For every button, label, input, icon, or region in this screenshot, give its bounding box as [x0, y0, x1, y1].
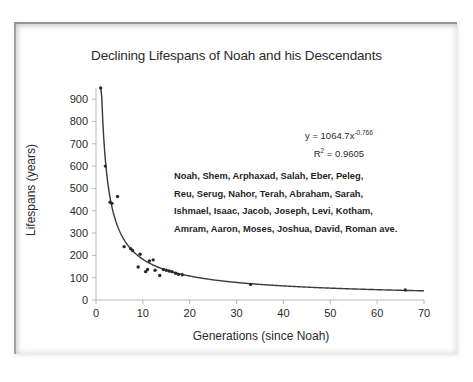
- y-tick-group: 0100200300400500600700800900: [70, 93, 96, 306]
- annotation-name-line: Reu, Serug, Nahor, Terah, Abraham, Sarah…: [174, 186, 397, 204]
- x-axis-title: Generations (since Noah): [96, 329, 426, 343]
- x-tick-label: 40: [277, 307, 289, 319]
- x-tick-label: 20: [184, 307, 196, 319]
- data-point: [104, 164, 107, 167]
- y-tick-label: 200: [70, 249, 88, 261]
- data-point: [153, 269, 156, 272]
- data-point: [146, 268, 149, 271]
- r-squared-symbol: R: [314, 148, 321, 159]
- data-point: [99, 86, 102, 89]
- data-point: [148, 259, 151, 262]
- y-tick-label: 900: [70, 93, 88, 105]
- equation-text: y = 1064.7x: [305, 130, 354, 141]
- descendant-names-annotation: Noah, Shem, Arphaxad, Salah, Eber, Peleg…: [174, 168, 397, 238]
- chart-page: Declining Lifespans of Noah and his Desc…: [0, 0, 473, 382]
- equation-line: y = 1064.7x-0.766: [305, 125, 373, 143]
- annotation-name-line: Amram, Aaron, Moses, Joshua, David, Roma…: [174, 221, 397, 239]
- data-point: [116, 195, 119, 198]
- x-tick-label: 30: [230, 307, 242, 319]
- y-axis: 0100200300400500600700800900: [70, 88, 96, 306]
- x-tick-label: 50: [324, 307, 336, 319]
- x-tick-group: 010203040506070: [93, 300, 430, 319]
- y-tick-label: 600: [70, 160, 88, 172]
- y-tick-label: 700: [70, 138, 88, 150]
- data-point: [138, 253, 141, 256]
- data-point: [249, 283, 252, 286]
- y-tick-label: 100: [70, 272, 88, 284]
- x-tick-label: 10: [137, 307, 149, 319]
- x-tick-label: 60: [371, 307, 383, 319]
- equation-exponent: -0.766: [354, 129, 372, 136]
- r-squared-value: = 0.9605: [324, 148, 364, 159]
- data-point: [151, 258, 154, 261]
- x-axis: 010203040506070: [93, 300, 430, 319]
- data-point: [181, 273, 184, 276]
- x-tick-label: 70: [418, 307, 430, 319]
- annotation-name-line: Ishmael, Isaac, Jacob, Joseph, Levi, Kot…: [174, 203, 397, 221]
- data-point: [136, 265, 139, 268]
- data-point: [131, 249, 134, 252]
- data-point: [165, 269, 168, 272]
- data-point: [177, 273, 180, 276]
- y-tick-label: 400: [70, 205, 88, 217]
- data-point: [404, 288, 407, 291]
- y-tick-label: 500: [70, 182, 88, 194]
- y-axis-title: Lifespans (years): [24, 115, 38, 265]
- annotation-name-line: Noah, Shem, Arphaxad, Salah, Eber, Peleg…: [174, 168, 397, 186]
- trendline-equation-annotation: y = 1064.7x-0.766 R2 = 0.9605: [305, 125, 373, 161]
- data-point: [167, 269, 170, 272]
- data-point: [110, 202, 113, 205]
- y-tick-label: 300: [70, 227, 88, 239]
- x-tick-label: 0: [93, 307, 99, 319]
- y-tick-label: 800: [70, 115, 88, 127]
- data-point: [170, 270, 173, 273]
- r-squared-line: R2 = 0.9605: [305, 143, 373, 161]
- y-tick-label: 0: [82, 294, 88, 306]
- data-point: [158, 274, 161, 277]
- data-point: [122, 245, 125, 248]
